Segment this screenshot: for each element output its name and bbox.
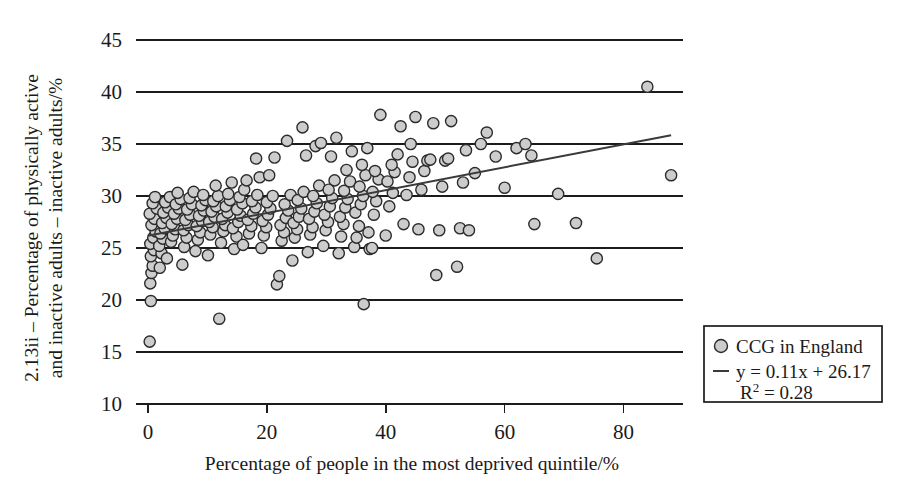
scatter-point: [329, 175, 340, 186]
scatter-point: [333, 248, 344, 259]
scatter-point: [386, 159, 397, 170]
scatter-point: [161, 253, 172, 264]
scatter-point: [437, 181, 448, 192]
scatter-point: [395, 121, 406, 132]
legend-r2-label: R2 = 0.28: [740, 380, 813, 403]
scatter-point: [375, 109, 386, 120]
scatter-point: [252, 189, 263, 200]
scatter-point: [144, 336, 155, 347]
scatter-point: [425, 154, 436, 165]
x-tick-label: 0: [143, 420, 154, 444]
legend-circle-marker-icon: [715, 340, 728, 353]
scatter-point: [380, 230, 391, 241]
y-tick-label: 35: [101, 132, 122, 156]
scatter-point: [475, 138, 486, 149]
scatter-point: [362, 143, 373, 154]
y-axis-title-line2: and inactive adults – inactive adults/%: [45, 78, 66, 379]
scatter-point: [570, 217, 581, 228]
scatter-point: [520, 138, 531, 149]
scatter-point: [256, 242, 267, 253]
scatter-point: [172, 187, 183, 198]
scatter-point: [363, 227, 374, 238]
scatter-point: [490, 151, 501, 162]
scatter-point: [297, 122, 308, 133]
scatter-point: [451, 261, 462, 272]
scatter-point: [241, 175, 252, 186]
scatter-point: [302, 247, 313, 258]
y-tick-label: 15: [101, 340, 122, 364]
scatter-point: [341, 164, 352, 175]
y-tick-label: 30: [101, 184, 122, 208]
scatter-point: [354, 181, 365, 192]
scatter-point: [325, 151, 336, 162]
scatter-point: [443, 153, 454, 164]
scatter-point: [416, 184, 427, 195]
x-tick-label: 40: [375, 420, 396, 444]
scatter-point: [346, 146, 357, 157]
legend-r2-base: R: [740, 382, 753, 403]
legend: CCG in England y = 0.11x + 26.17 R2 = 0.…: [704, 326, 882, 403]
x-tick-label: 80: [613, 420, 634, 444]
y-tick-label: 40: [101, 80, 122, 104]
scatter-point: [553, 188, 564, 199]
scatter-point: [463, 225, 474, 236]
scatter-point: [331, 132, 342, 143]
scatter-point: [274, 270, 285, 281]
scatter-point: [457, 177, 468, 188]
scatter-point: [666, 170, 677, 181]
scatter-point: [269, 152, 280, 163]
scatter-point: [145, 295, 156, 306]
scatter-point: [481, 127, 492, 138]
scatter-point: [398, 218, 409, 229]
scatter-point: [308, 190, 319, 201]
y-tick-label: 20: [101, 288, 122, 312]
scatter-point: [202, 250, 213, 261]
chart-background: [0, 0, 922, 493]
scatter-point: [212, 190, 223, 201]
scatter-point: [529, 218, 540, 229]
scatter-point: [287, 255, 298, 266]
scatter-point: [145, 278, 156, 289]
scatter-point: [214, 313, 225, 324]
scatter-point: [315, 137, 326, 148]
legend-series-label: CCG in England: [736, 336, 863, 357]
scatter-point: [368, 209, 379, 220]
scatter-point: [382, 176, 393, 187]
x-axis-title: Percentage of people in the most deprive…: [205, 453, 619, 474]
scatter-point: [351, 232, 362, 243]
scatter-point: [300, 150, 311, 161]
y-tick-label: 25: [101, 236, 122, 260]
scatter-point: [154, 262, 165, 273]
x-tick-label: 20: [256, 420, 277, 444]
scatter-point: [198, 189, 209, 200]
legend-r2-rest: = 0.28: [759, 382, 812, 403]
scatter-point: [149, 191, 160, 202]
x-tick-label: 60: [494, 420, 515, 444]
scatter-point: [215, 237, 226, 248]
scatter-point: [177, 259, 188, 270]
scatter-point: [237, 239, 248, 250]
scatter-point: [405, 138, 416, 149]
scatter-point: [226, 177, 237, 188]
y-tick-label: 10: [101, 392, 122, 416]
scatter-point: [267, 190, 278, 201]
scatter-point: [407, 156, 418, 167]
scatter-point: [356, 159, 367, 170]
scatter-point: [401, 189, 412, 200]
scatter-point: [336, 231, 347, 242]
scatter-point: [281, 135, 292, 146]
scatter-chart: 1015202530354045 020406080 Percentage of…: [0, 0, 922, 493]
scatter-point: [428, 118, 439, 129]
scatter-point: [190, 246, 201, 257]
scatter-point: [404, 172, 415, 183]
y-tick-label: 45: [101, 28, 122, 52]
chart-figure: 1015202530354045 020406080 Percentage of…: [0, 0, 922, 493]
scatter-point: [526, 150, 537, 161]
scatter-point: [460, 145, 471, 156]
scatter-point: [434, 225, 445, 236]
scatter-point: [499, 182, 510, 193]
scatter-point: [384, 201, 395, 212]
scatter-point: [446, 116, 457, 127]
scatter-point: [410, 111, 421, 122]
y-axis-title-line1: 2.13ii – Percentage of physically active: [21, 74, 42, 382]
